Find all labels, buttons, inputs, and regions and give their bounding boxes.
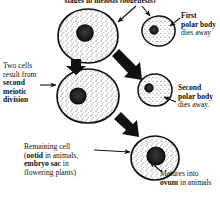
nucleus-secondary-oocyte bbox=[70, 88, 86, 104]
label-two-cells: Two cells result from second meiotic div… bbox=[3, 62, 37, 105]
cell-primary-oocyte bbox=[58, 9, 118, 63]
matures-line2-suffix: in animals bbox=[178, 178, 211, 187]
cell-secondary-oocyte bbox=[57, 69, 119, 123]
two-cells-line5: division bbox=[3, 95, 28, 104]
cell-first-polar-body bbox=[142, 16, 175, 46]
nucleus-second-polar-body bbox=[145, 84, 153, 92]
nucleus-first-polar-body bbox=[150, 26, 158, 34]
pointer-from-polar-body-top bbox=[142, 6, 150, 16]
label-remaining-cell: Remaining cell (ootid in animals, embryo… bbox=[24, 143, 78, 177]
first-polar-line3: dies away bbox=[181, 28, 211, 37]
second-polar-line3: dies away. bbox=[178, 100, 210, 109]
remaining-line4: flowering plants) bbox=[24, 168, 76, 177]
arrow-oocyte-to-polar-body bbox=[112, 49, 142, 80]
arrow-secondary-to-ootid bbox=[114, 112, 139, 137]
matures-line2-bold: ovum bbox=[160, 178, 178, 187]
oogenesis-diagram: stages in meiosis (oogenesis) bbox=[0, 0, 220, 198]
label-second-polar-body: Second polar body dies away. bbox=[178, 84, 213, 110]
nucleus-primary-oocyte bbox=[77, 25, 93, 41]
pointer-from-oocyte-top bbox=[118, 6, 136, 22]
pointer-to-remaining-cell bbox=[94, 150, 130, 152]
nucleus-ootid bbox=[147, 147, 165, 165]
cell-second-polar-body bbox=[138, 74, 172, 106]
label-matures-into-ovum: Matures into ovum in animals bbox=[160, 170, 211, 187]
label-first-polar-body: First polar body dies away bbox=[181, 12, 216, 38]
